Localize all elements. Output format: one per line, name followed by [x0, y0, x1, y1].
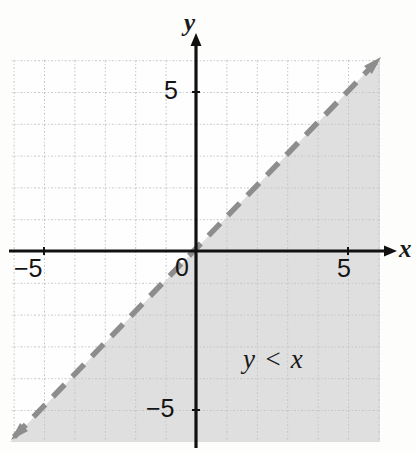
- inequality-region-label: y < x: [243, 346, 304, 373]
- y-tick-label-negative-5: −5: [146, 396, 175, 421]
- y-axis-label: y: [184, 10, 195, 35]
- y-tick-label-positive-5: 5: [164, 78, 178, 103]
- graph-figure: y x 0 −5 5 5 −5 y < x: [0, 0, 416, 452]
- coordinate-plane: [0, 0, 416, 452]
- x-tick-label-positive-5: 5: [337, 256, 351, 281]
- x-axis-label: x: [399, 236, 412, 261]
- x-tick-label-negative-5: −5: [14, 256, 43, 281]
- origin-tick-label: 0: [175, 255, 189, 280]
